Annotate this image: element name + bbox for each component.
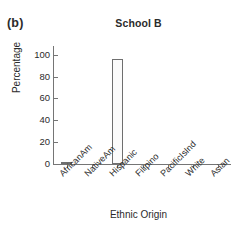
y-tick: 60 — [54, 98, 58, 99]
y-tick-mark — [54, 142, 58, 143]
y-tick: 80 — [54, 77, 58, 78]
y-tick-mark — [54, 77, 58, 78]
y-tick: 20 — [54, 142, 58, 143]
y-tick-mark — [54, 164, 58, 165]
y-tick: 40 — [54, 120, 58, 121]
y-tick: 100 — [54, 55, 58, 56]
y-tick-label: 20 — [39, 136, 50, 147]
chart-title: School B — [44, 17, 233, 29]
x-axis-title: Ethnic Origin — [44, 209, 233, 220]
clipped-fragment: · — [18, 0, 21, 3]
chart-figure: · · · (b) School B Percentage 0204060801… — [0, 0, 233, 228]
clipped-fragment: · — [172, 0, 175, 3]
clipped-fragment: · — [199, 0, 202, 3]
y-tick-mark — [54, 98, 58, 99]
y-tick-mark — [54, 120, 58, 121]
y-tick-label: 80 — [39, 71, 50, 82]
y-tick-label: 100 — [34, 49, 50, 60]
y-tick-label: 0 — [45, 158, 50, 169]
y-tick-label: 60 — [39, 92, 50, 103]
y-tick: 0 — [54, 164, 58, 165]
y-tick-mark — [54, 55, 58, 56]
y-axis-spine — [53, 46, 54, 165]
clipped-text-above: · · · — [0, 0, 233, 9]
y-axis-title: Percentage — [11, 8, 22, 128]
y-tick-label: 40 — [39, 114, 50, 125]
